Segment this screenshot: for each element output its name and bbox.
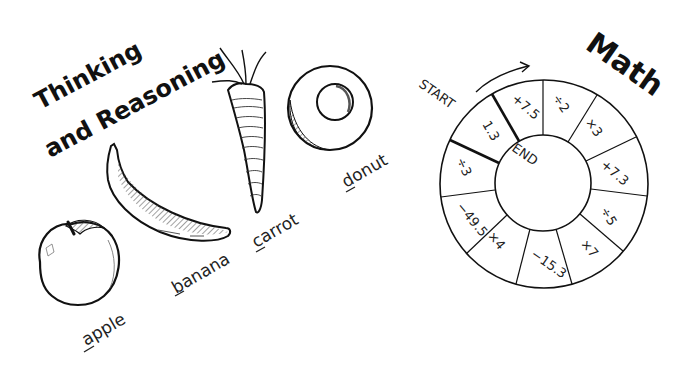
segment-times-4: ×4 [485, 228, 509, 252]
segment-1-3: 1.3 [479, 118, 502, 143]
carrot-label-text: carrot [248, 209, 302, 252]
segment-times-7: ×7 [578, 236, 602, 260]
math-title: Math [580, 25, 670, 103]
banana-label-text: banana [168, 248, 233, 297]
apple-label-text: apple [78, 309, 129, 350]
carrot-label: carrot [248, 209, 302, 252]
segment-plus-7-5: +7.5 [509, 91, 543, 123]
segment-div-2: ÷2 [550, 91, 573, 115]
banana-icon [107, 144, 230, 241]
math-title-text: Math [580, 25, 670, 103]
segment-plus-7-3: +7.3 [598, 157, 632, 189]
math-wheel: 1.3 +7.5 ÷2 ×3 +7.3 ÷5 ×7 −15.3 ×4 −49.5… [440, 80, 648, 288]
segment-minus-15-3: −15.3 [528, 246, 569, 281]
wheel-inner-circle [495, 135, 591, 231]
illustration-canvas: Thinking and Reasoning apple banana [0, 0, 675, 372]
apple-icon [39, 220, 119, 305]
start-label: START [416, 76, 458, 111]
segment-div-5: ÷5 [597, 204, 620, 228]
donut-label-text: donut [338, 149, 391, 191]
segment-times-3: ×3 [583, 115, 606, 139]
banana-label: banana [168, 248, 233, 297]
segment-minus-49-5: −49.5 [454, 199, 491, 239]
donut-icon [288, 66, 372, 150]
segment-div-3: ÷3 [453, 155, 475, 179]
thinking-reasoning-title: Thinking and Reasoning [30, 36, 230, 164]
apple-label: apple [78, 309, 129, 352]
donut-label: donut [338, 149, 391, 192]
